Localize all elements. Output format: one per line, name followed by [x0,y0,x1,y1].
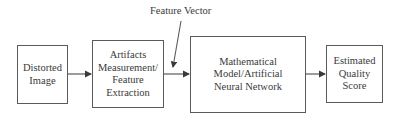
feature-vector-label: Feature Vector [150,5,211,16]
arrow-feature-vector-pointer [173,21,181,67]
node-quality-score: Estimated Quality Score [326,45,383,103]
node-model: Mathematical Model/Artificial Neural Net… [190,36,306,113]
node-label: Artifacts Measurement/ Feature Extractio… [98,49,158,99]
node-distorted-image: Distorted Image [17,45,68,104]
node-label: Distorted Image [23,62,62,87]
node-label: Estimated Quality Score [334,55,376,93]
node-feature-extraction: Artifacts Measurement/ Feature Extractio… [92,40,164,108]
node-label: Mathematical Model/Artificial Neural Net… [214,56,283,94]
